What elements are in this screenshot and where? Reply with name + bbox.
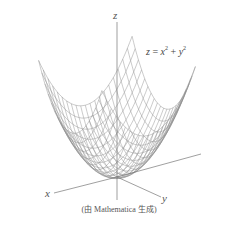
x-axis-label: x [45,188,50,199]
eq-exp2: 2 [183,45,186,51]
mesh-line [62,97,125,170]
y-axis [117,177,161,197]
mesh-line [102,67,195,137]
z-axis-label: z [113,10,117,21]
mesh-line [118,69,181,142]
mesh-line [77,109,171,178]
x-axis [54,177,117,193]
mesh-line [57,92,120,165]
mesh-line [113,78,176,151]
mesh-line [96,84,190,153]
paraboloid-figure [0,0,238,225]
eq-plus: + [168,46,176,57]
eq-equals: = [150,46,161,57]
mesh-line [123,59,186,132]
mesh-line [42,49,135,119]
mesh-line [99,96,162,169]
mesh-line [45,60,138,129]
caption: (由 Mathematica 生成) [0,203,238,214]
mesh-line [71,104,134,177]
equation-label: z = x2 + y2 [146,45,186,57]
